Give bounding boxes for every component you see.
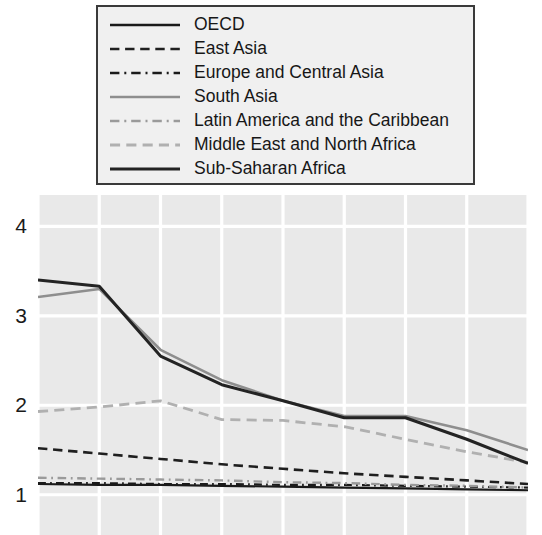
y-axis-tick-label: 1 xyxy=(15,484,27,505)
legend-item[interactable]: Middle East and North Africa xyxy=(98,133,473,157)
plot-canvas xyxy=(38,195,528,535)
y-axis-tick-label: 2 xyxy=(15,394,27,415)
legend-line-swatch-icon xyxy=(108,161,182,177)
legend-item-label: Sub-Saharan Africa xyxy=(194,160,346,178)
legend-item-label: Latin America and the Caribbean xyxy=(194,112,449,130)
legend-line-swatch-icon xyxy=(108,89,182,105)
chart-legend: OECDEast AsiaEurope and Central AsiaSout… xyxy=(96,5,475,185)
legend-item-label: Europe and Central Asia xyxy=(194,64,384,82)
legend-line-swatch-icon xyxy=(108,41,182,57)
legend-line-swatch-icon xyxy=(108,113,182,129)
legend-item-label: East Asia xyxy=(194,40,267,58)
legend-item[interactable]: South Asia xyxy=(98,85,473,109)
legend-item[interactable]: Latin America and the Caribbean xyxy=(98,109,473,133)
legend-item-label: OECD xyxy=(194,16,245,34)
y-axis: 4321 xyxy=(0,0,38,535)
legend-line-swatch-icon xyxy=(108,65,182,81)
line-chart: 4321 OECDEast AsiaEurope and Central Asi… xyxy=(0,0,542,535)
plot-area xyxy=(38,195,528,535)
y-axis-tick-label: 3 xyxy=(15,305,27,326)
legend-line-swatch-icon xyxy=(108,137,182,153)
legend-item-label: Middle East and North Africa xyxy=(194,136,416,154)
legend-item-label: South Asia xyxy=(194,88,278,106)
legend-item[interactable]: Europe and Central Asia xyxy=(98,61,473,85)
legend-item[interactable]: Sub-Saharan Africa xyxy=(98,157,473,181)
legend-line-swatch-icon xyxy=(108,17,182,33)
legend-item[interactable]: OECD xyxy=(98,13,473,37)
legend-item[interactable]: East Asia xyxy=(98,37,473,61)
y-axis-tick-label: 4 xyxy=(15,215,27,236)
